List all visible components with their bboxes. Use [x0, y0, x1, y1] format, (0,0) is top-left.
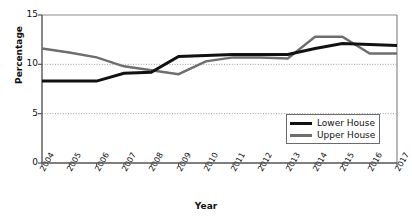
- legend-label-upper-house: Upper House: [317, 131, 375, 140]
- line-chart-figure: Percentage Year 051015 20042005200620072…: [0, 0, 412, 223]
- legend-item-upper-house: Upper House: [290, 129, 375, 141]
- chart-legend: Lower House Upper House: [286, 114, 380, 144]
- legend-label-lower-house: Lower House: [317, 119, 375, 128]
- legend-swatch-upper-house: [290, 134, 312, 137]
- plot-canvas: [0, 0, 412, 223]
- legend-item-lower-house: Lower House: [290, 117, 375, 129]
- legend-swatch-lower-house: [290, 122, 312, 125]
